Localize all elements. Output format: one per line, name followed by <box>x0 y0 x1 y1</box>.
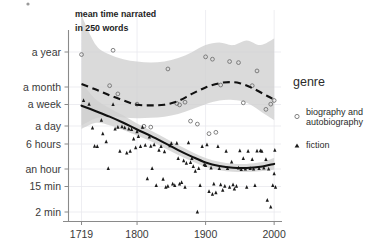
legend-label-biography-line2: autobiography <box>306 117 364 127</box>
y-tick-label: 15 min <box>29 180 61 192</box>
x-tick-label: 1719 <box>70 228 94 240</box>
y-tick-label: 6 hours <box>26 138 61 150</box>
y-tick-label: a week <box>28 98 62 110</box>
legend-entry-biography[interactable]: biography and autobiography <box>295 107 364 127</box>
chart-figure: a yeara montha weeka day6 hoursan hour15… <box>0 0 371 245</box>
legend-label-biography-line1: biography and <box>306 107 363 117</box>
x-tick-label: 1800 <box>125 228 149 240</box>
y-tick-label: an hour <box>25 163 61 175</box>
legend-label-fiction: fiction <box>306 140 330 150</box>
y-tick-label: 2 min <box>35 206 61 218</box>
x-tick-label: 1900 <box>194 228 218 240</box>
annotation-line-1: mean time narrated <box>75 9 156 19</box>
chart-svg: a yeara montha weeka day6 hoursan hour15… <box>0 0 371 245</box>
stray-top-mark <box>26 2 29 5</box>
x-tick-label: 2000 <box>262 228 286 240</box>
annotation-line-2: in 250 words <box>75 23 128 33</box>
y-tick-label: a month <box>23 81 61 93</box>
y-tick-label: a day <box>35 120 61 132</box>
y-tick-label: a year <box>32 46 62 58</box>
legend-title: genre <box>293 75 325 89</box>
